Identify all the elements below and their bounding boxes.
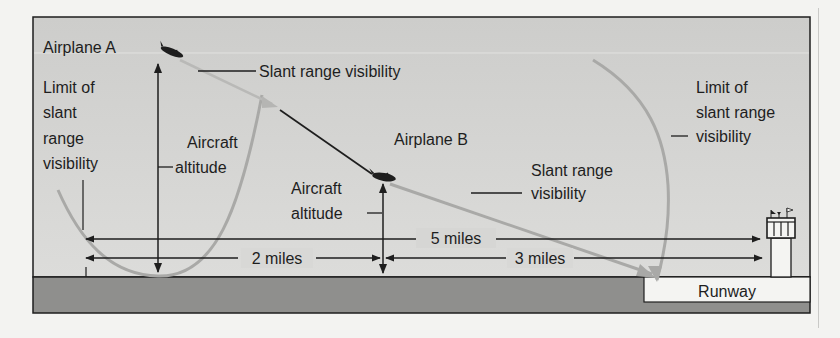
- svg-text:Aircraft: Aircraft: [187, 134, 238, 151]
- two-miles-label: 2 miles: [252, 250, 303, 267]
- airplane-b-label: Airplane B: [394, 131, 468, 148]
- svg-text:Limit of: Limit of: [43, 79, 95, 96]
- svg-text:visibility: visibility: [43, 155, 98, 172]
- svg-text:altitude: altitude: [175, 159, 227, 176]
- three-miles-label: 3 miles: [515, 250, 566, 267]
- svg-text:visibility: visibility: [531, 185, 586, 202]
- slant-range-visibility-label-top: Slant range visibility: [259, 63, 400, 80]
- svg-text:Slant range: Slant range: [531, 162, 613, 179]
- runway-label: Runway: [698, 283, 756, 300]
- svg-text:slant: slant: [43, 104, 77, 121]
- airplane-a-label: Airplane A: [43, 39, 116, 56]
- svg-text:Aircraft: Aircraft: [291, 180, 342, 197]
- svg-text:range: range: [43, 130, 84, 147]
- svg-text:altitude: altitude: [291, 205, 343, 222]
- svg-text:slant range: slant range: [696, 104, 775, 121]
- control-tower-icon: [767, 208, 795, 277]
- runway: Runway: [644, 277, 810, 302]
- slant-range-visibility-diagram: Runway 5 miles 2 miles 3 miles: [0, 0, 840, 338]
- svg-text:visibility: visibility: [696, 128, 751, 145]
- five-miles-label: 5 miles: [431, 230, 482, 247]
- svg-text:Limit of: Limit of: [696, 79, 748, 96]
